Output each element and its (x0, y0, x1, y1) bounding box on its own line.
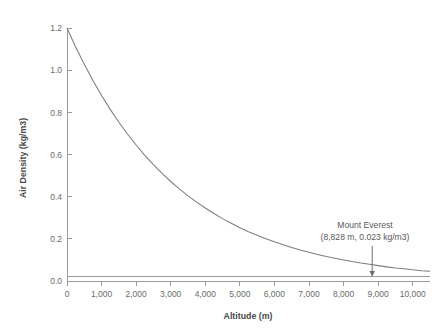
x-tick-label: 4,000 (195, 289, 217, 299)
chart-canvas: 0.00.20.40.60.81.01.2 01,0002,0003,0004,… (0, 0, 447, 333)
x-tick-label: 1,000 (91, 289, 113, 299)
x-tick-label: 6,000 (264, 289, 286, 299)
x-tick-label: 3,000 (160, 289, 182, 299)
x-tick-label: 2,000 (126, 289, 148, 299)
x-tick-label: 10,000 (400, 289, 426, 299)
x-axis-title: Altitude (m) (224, 311, 273, 321)
y-tick-label: 0.0 (50, 276, 62, 286)
x-tick-label: 9,000 (368, 289, 390, 299)
y-tick-label: 0.4 (50, 192, 62, 202)
air-density-altitude-chart: 0.00.20.40.60.81.01.2 01,0002,0003,0004,… (0, 0, 447, 333)
y-tick-label: 1.2 (50, 23, 62, 33)
y-tick-label: 0.6 (50, 150, 62, 160)
x-tick-label: 8,000 (333, 289, 355, 299)
x-tick-label: 5,000 (229, 289, 251, 299)
y-tick-label: 0.2 (50, 234, 62, 244)
y-axis-title: Air Density (kg/m3) (18, 118, 28, 198)
x-tick-label: 7,000 (298, 289, 320, 299)
annotation-value: (8,828 m, 0.023 kg/m3) (321, 232, 410, 242)
annotation-title: Mount Everest (337, 220, 393, 230)
y-tick-label: 1.0 (50, 65, 62, 75)
y-tick-label: 0.8 (50, 108, 62, 118)
x-tick-label: 0 (65, 289, 70, 299)
